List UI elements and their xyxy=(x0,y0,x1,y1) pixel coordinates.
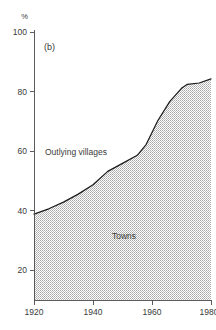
x-tick-label-1960: 1960 xyxy=(143,307,162,317)
panel-label: (b) xyxy=(44,42,55,52)
y-tick-label-80: 80 xyxy=(18,87,28,97)
y-tick-label-20: 20 xyxy=(18,265,28,275)
y-tick-label-100: 100 xyxy=(13,27,27,37)
y-tick-label-60: 60 xyxy=(18,146,28,156)
area-chart: 100 80 60 40 20 % 1920 1940 1960 1980 (b… xyxy=(0,0,216,330)
annotation-towns: Towns xyxy=(112,231,136,241)
x-tick-label-1940: 1940 xyxy=(84,307,103,317)
chart-figure: 100 80 60 40 20 % 1920 1940 1960 1980 (b… xyxy=(0,0,216,330)
annotation-outlying-villages: Outlying villages xyxy=(45,147,107,157)
x-tick-label-1920: 1920 xyxy=(25,307,44,317)
y-tick-label-40: 40 xyxy=(18,206,28,216)
y-axis-unit-label: % xyxy=(21,12,28,21)
towns-area xyxy=(34,79,211,300)
x-tick-label-1980: 1980 xyxy=(200,307,216,317)
